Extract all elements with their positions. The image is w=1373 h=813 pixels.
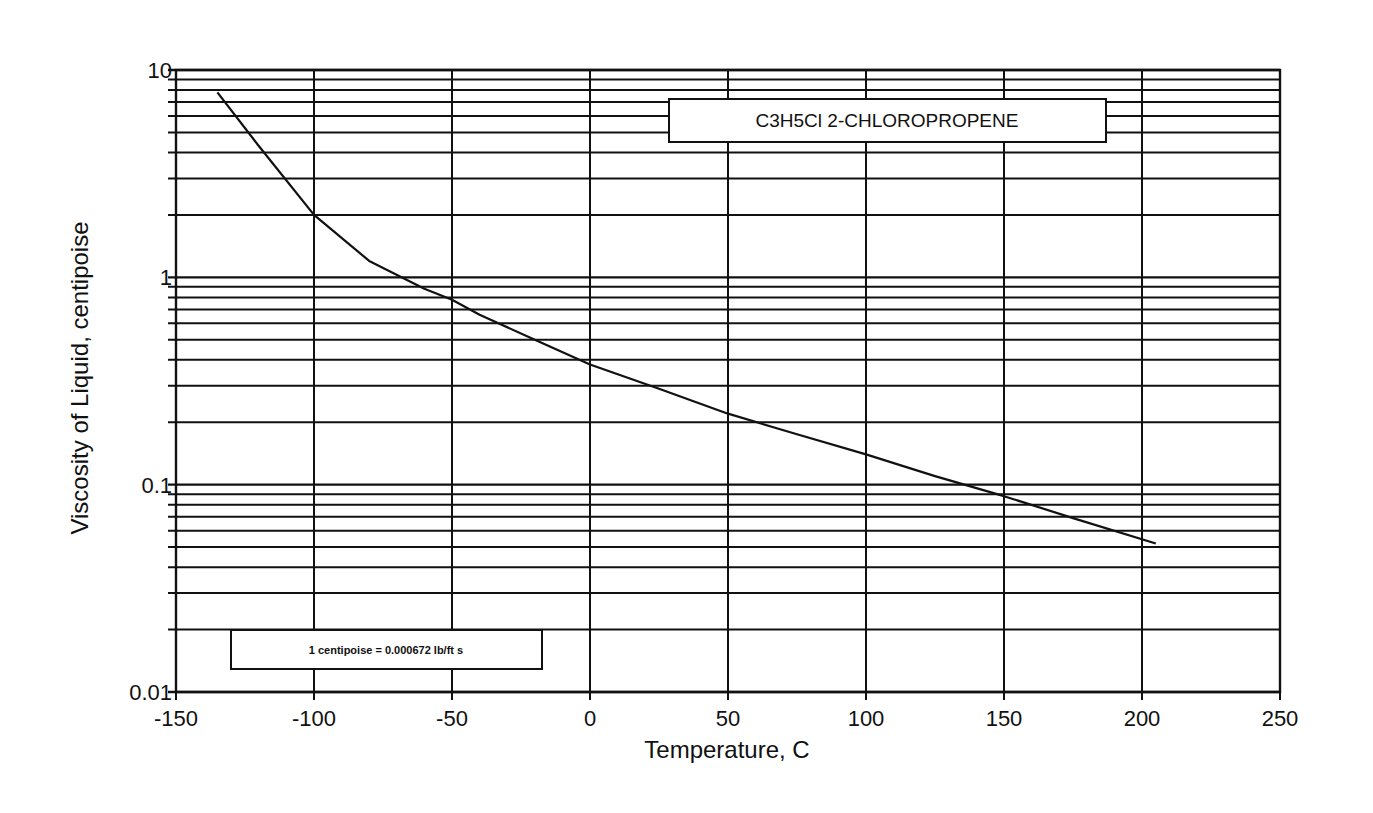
chart-title: C3H5Cl 2-CHLOROPROPENE (756, 110, 1019, 131)
y-tick-label: 0.1 (141, 473, 172, 498)
x-tick-label: 200 (1124, 706, 1161, 731)
x-tick-label: 50 (716, 706, 740, 731)
data-curve (217, 92, 1155, 543)
x-axis-title: Temperature, C (644, 736, 809, 763)
y-tick-label: 10 (148, 58, 172, 83)
x-tick-label: 0 (584, 706, 596, 731)
x-tick-label: 150 (986, 706, 1023, 731)
x-tick-label: -150 (154, 706, 198, 731)
y-axis-title: Viscosity of Liquid, centipoise (66, 221, 93, 534)
viscosity-chart: -150-100-50050100150200250 0.010.1110 C3… (0, 0, 1373, 813)
x-tick-label: 250 (1262, 706, 1299, 731)
x-tick-label: -100 (292, 706, 336, 731)
title-box: C3H5Cl 2-CHLOROPROPENE (669, 99, 1106, 142)
y-axis-ticks: 0.010.1110 (129, 58, 172, 705)
viscosity-curve (217, 92, 1155, 543)
x-tick-label: -50 (436, 706, 468, 731)
y-tick-label: 1 (160, 265, 172, 290)
grid-lines (168, 70, 1280, 700)
x-axis-ticks: -150-100-50050100150200250 (154, 706, 1298, 731)
unit-conversion-note: 1 centipoise = 0.000672 lb/ft s (309, 644, 463, 656)
y-tick-label: 0.01 (129, 680, 172, 705)
unit-note-box: 1 centipoise = 0.000672 lb/ft s (231, 630, 542, 669)
x-tick-label: 100 (848, 706, 885, 731)
